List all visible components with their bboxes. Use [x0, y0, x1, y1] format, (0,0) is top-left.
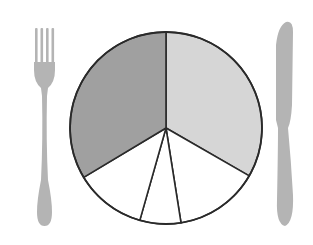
fork-icon [34, 28, 55, 226]
plate-diagram [0, 0, 313, 245]
pie-chart [70, 32, 262, 224]
knife-icon [276, 22, 293, 226]
